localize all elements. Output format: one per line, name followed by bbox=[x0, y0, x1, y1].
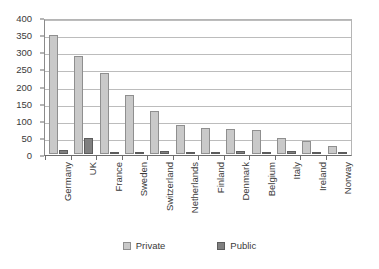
x-label-cell: Denmark bbox=[224, 162, 250, 230]
bar-public-italy bbox=[287, 151, 296, 154]
legend-label-public: Public bbox=[230, 240, 256, 251]
bar-public-belgium bbox=[262, 152, 271, 154]
x-tick-cell bbox=[249, 156, 275, 160]
x-axis-labels: GermanyUKFranceSwedenSwitzerlandNetherla… bbox=[45, 162, 351, 230]
bar-group bbox=[325, 21, 350, 154]
y-axis: 050100150200250300350400 bbox=[0, 19, 38, 156]
x-tick-cell bbox=[173, 156, 199, 160]
x-tick-mark bbox=[249, 156, 250, 160]
bar-group bbox=[97, 21, 122, 154]
bar-private-ireland bbox=[302, 141, 311, 154]
x-label-cell: Finland bbox=[198, 162, 224, 230]
bar-group bbox=[299, 21, 324, 154]
x-tick-mark bbox=[224, 156, 225, 160]
x-tick-mark bbox=[96, 156, 97, 160]
legend-label-private: Private bbox=[136, 240, 166, 251]
x-label-cell: UK bbox=[71, 162, 97, 230]
x-tick-cell bbox=[147, 156, 173, 160]
x-label-cell: Sweden bbox=[122, 162, 148, 230]
bar-group bbox=[147, 21, 172, 154]
bar-private-switzerland bbox=[150, 111, 159, 154]
x-label-cell: France bbox=[96, 162, 122, 230]
bar-public-switzerland bbox=[160, 151, 169, 154]
bar-public-sweden bbox=[135, 152, 144, 154]
x-tick-cell bbox=[71, 156, 97, 160]
bar-public-uk bbox=[84, 138, 93, 154]
x-label-cell: Belgium bbox=[249, 162, 275, 230]
bar-group bbox=[223, 21, 248, 154]
bar-private-netherlands bbox=[176, 125, 185, 154]
legend-swatch-private-icon bbox=[123, 242, 131, 250]
y-tick-label: 300 bbox=[16, 49, 32, 59]
bar-private-belgium bbox=[252, 130, 261, 154]
bar-public-norway bbox=[338, 152, 347, 154]
x-tick-cell bbox=[275, 156, 301, 160]
bar-public-denmark bbox=[236, 151, 245, 154]
y-tick-label: 150 bbox=[16, 100, 32, 110]
x-label-cell: Italy bbox=[275, 162, 301, 230]
bar-public-ireland bbox=[312, 152, 321, 154]
x-tick-cell bbox=[45, 156, 71, 160]
x-tick-mark bbox=[300, 156, 301, 160]
x-tick-mark bbox=[275, 156, 276, 160]
bar-public-france bbox=[110, 152, 119, 154]
bars-layer bbox=[46, 21, 350, 154]
x-axis-ticks bbox=[45, 156, 351, 160]
bar-private-france bbox=[100, 73, 109, 154]
y-tick-label: 350 bbox=[16, 31, 32, 41]
bar-group bbox=[274, 21, 299, 154]
x-label-cell: Norway bbox=[326, 162, 352, 230]
plot-area bbox=[44, 19, 352, 156]
x-tick-cell bbox=[224, 156, 250, 160]
y-tick-label: 200 bbox=[16, 83, 32, 93]
x-tick-mark bbox=[173, 156, 174, 160]
chart-legend: PrivatePublic bbox=[0, 240, 379, 251]
bar-private-finland bbox=[201, 128, 210, 154]
x-tick-mark bbox=[326, 156, 327, 160]
bar-private-norway bbox=[328, 146, 337, 154]
x-tick-mark bbox=[71, 156, 72, 160]
x-tick-mark bbox=[122, 156, 123, 160]
y-tick-label: 100 bbox=[16, 117, 32, 127]
legend-item-private[interactable]: Private bbox=[123, 240, 166, 251]
y-tick-label: 50 bbox=[21, 134, 32, 144]
bar-public-germany bbox=[59, 150, 68, 154]
bar-private-germany bbox=[49, 35, 58, 154]
x-tick-cell bbox=[300, 156, 326, 160]
x-tick-mark bbox=[198, 156, 199, 160]
x-label-cell: Switzerland bbox=[147, 162, 173, 230]
bar-group bbox=[173, 21, 198, 154]
bar-chart-figure: 050100150200250300350400 GermanyUKFrance… bbox=[0, 0, 379, 269]
bar-group bbox=[122, 21, 147, 154]
bar-group bbox=[198, 21, 223, 154]
x-tick-mark bbox=[147, 156, 148, 160]
y-tick-label: 0 bbox=[27, 151, 32, 161]
x-tick-cell bbox=[122, 156, 148, 160]
y-tick-label: 250 bbox=[16, 66, 32, 76]
bar-group bbox=[46, 21, 71, 154]
x-tick-cell bbox=[96, 156, 122, 160]
bar-public-finland bbox=[211, 152, 220, 154]
x-tick-mark bbox=[45, 156, 46, 160]
x-label-cell: Germany bbox=[45, 162, 71, 230]
bar-private-uk bbox=[74, 56, 83, 154]
y-tick-label: 400 bbox=[16, 14, 32, 24]
bar-group bbox=[71, 21, 96, 154]
bar-private-denmark bbox=[226, 129, 235, 154]
x-label-cell: Ireland bbox=[300, 162, 326, 230]
legend-item-public[interactable]: Public bbox=[217, 240, 256, 251]
bar-public-netherlands bbox=[186, 152, 195, 154]
legend-swatch-public-icon bbox=[217, 242, 225, 250]
bar-group bbox=[249, 21, 274, 154]
x-tick-cell bbox=[198, 156, 224, 160]
x-tick-cell bbox=[326, 156, 352, 160]
x-label-cell: Netherlands bbox=[173, 162, 199, 230]
bar-private-italy bbox=[277, 138, 286, 154]
plot-wrapper bbox=[44, 19, 352, 156]
x-tick-label-norway: Norway bbox=[343, 162, 353, 194]
bar-private-sweden bbox=[125, 95, 134, 154]
